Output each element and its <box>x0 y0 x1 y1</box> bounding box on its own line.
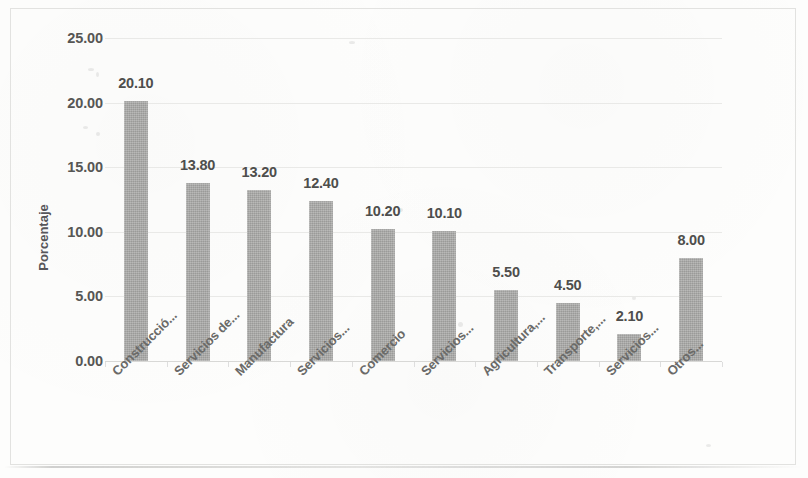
y-axis-tick-label: 20.00 <box>33 95 103 111</box>
x-axis-tick <box>167 362 168 367</box>
y-axis-tick-label: 10.00 <box>33 224 103 240</box>
bar[interactable] <box>124 101 148 361</box>
chart-screenshot: Porcentaje 0.005.0010.0015.0020.0025.00 … <box>0 0 808 478</box>
y-axis-tick-label: 25.00 <box>33 30 103 46</box>
x-axis-tick <box>228 362 229 367</box>
bar-value-label: 4.50 <box>554 277 581 293</box>
bar-value-label: 13.80 <box>180 157 215 173</box>
x-axis-tick <box>537 362 538 367</box>
x-axis-tick <box>105 362 106 367</box>
x-axis-tick <box>599 362 600 367</box>
x-axis-category-labels: Construcció...Servicios de...Manufactura… <box>105 362 722 462</box>
gridline <box>105 38 722 39</box>
x-axis-tick <box>660 362 661 367</box>
bar-value-label: 12.40 <box>303 175 338 191</box>
bar-value-label: 5.50 <box>492 264 519 280</box>
x-axis-tick <box>290 362 291 367</box>
x-axis-tick <box>352 362 353 367</box>
bar-value-label: 8.00 <box>677 232 704 248</box>
y-axis-tick-labels: 0.005.0010.0015.0020.0025.00 <box>25 38 103 361</box>
gridline <box>105 103 722 104</box>
bar-value-label: 13.20 <box>242 164 277 180</box>
bar-value-label: 2.10 <box>616 308 643 324</box>
y-axis-tick-label: 0.00 <box>33 353 103 369</box>
x-axis-tick <box>475 362 476 367</box>
y-axis-tick-label: 15.00 <box>33 159 103 175</box>
y-axis-tick-label: 5.00 <box>33 288 103 304</box>
bar-value-label: 10.20 <box>365 203 400 219</box>
x-axis-tick <box>414 362 415 367</box>
bar-value-label: 20.10 <box>118 75 153 91</box>
scan-edge-smudge <box>4 466 802 468</box>
x-axis-tick <box>722 362 723 367</box>
bar-value-label: 10.10 <box>427 205 462 221</box>
plot-area: 20.1013.8013.2012.4010.2010.105.504.502.… <box>105 38 722 361</box>
